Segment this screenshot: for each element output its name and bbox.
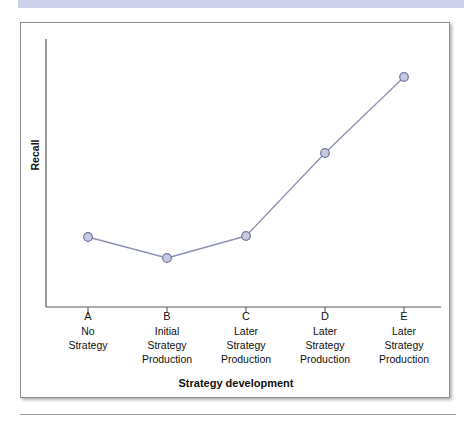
x-tick-description-e-line-2: Strategy — [356, 338, 452, 352]
x-tick-label-e: E — [356, 309, 452, 324]
plot-area: Recall A No Strategy B Initial Strategy … — [21, 23, 451, 399]
bottom-divider-rule — [20, 414, 456, 415]
decorative-top-band — [18, 0, 464, 8]
data-point-markers — [84, 73, 409, 263]
data-point-d — [321, 149, 330, 158]
x-axis-title: Strategy development — [21, 377, 451, 389]
figure-panel: Recall A No Strategy B Initial Strategy … — [20, 22, 450, 398]
x-tick-description-e-line-1: Later — [356, 324, 452, 338]
x-tick-description-e: Later Strategy Production — [356, 324, 452, 366]
data-line — [88, 77, 404, 258]
data-point-a — [84, 233, 93, 242]
y-axis-title: Recall — [29, 125, 41, 185]
x-tick-description-e-line-3: Production — [356, 352, 452, 366]
data-point-b — [163, 254, 172, 263]
x-tick-group-e: E Later Strategy Production — [356, 309, 452, 366]
data-point-c — [242, 232, 251, 241]
data-point-e — [400, 73, 409, 82]
